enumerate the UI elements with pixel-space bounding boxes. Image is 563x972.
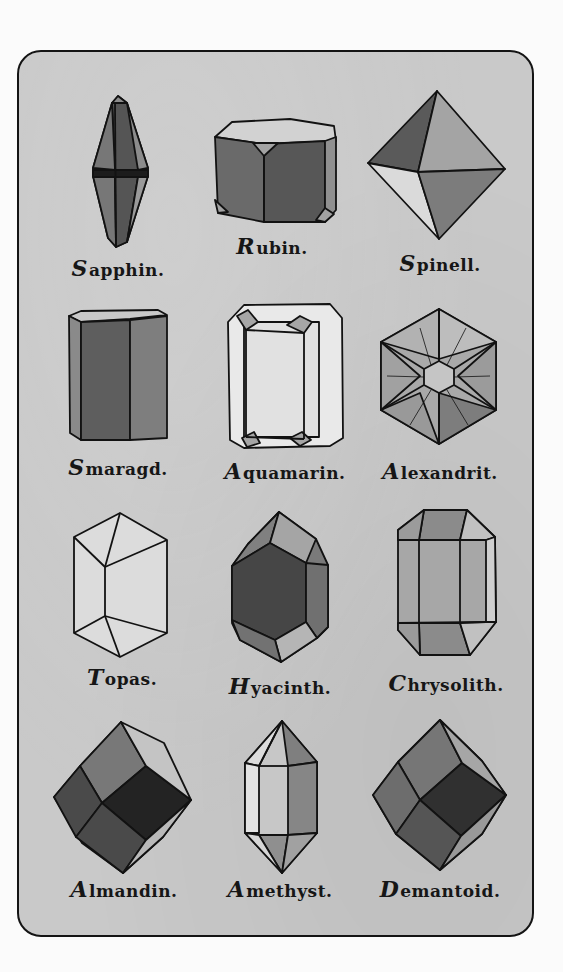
gem-label-chrysolith: Chrysolith. <box>388 670 503 696</box>
label-text: methyst. <box>246 881 332 901</box>
label-text: quamarin. <box>243 463 345 483</box>
crystal-illustrations <box>0 0 563 972</box>
label-initial: D <box>380 876 400 902</box>
gem-label-emerald: Smaragd. <box>68 454 168 480</box>
almandine-crystal-illustration <box>54 722 191 873</box>
label-initial: A <box>70 876 88 902</box>
gem-label-amethyst: Amethyst. <box>228 876 333 902</box>
chrysolith-crystal-illustration <box>398 510 496 655</box>
label-initial: H <box>229 673 250 699</box>
gem-label-ruby: Rubin. <box>236 233 307 259</box>
gem-label-topaz: Topas. <box>87 664 157 690</box>
gem-label-alexandrite: Alexandrit. <box>382 458 497 484</box>
gem-label-spinel: Spinell. <box>399 250 480 276</box>
label-text: emantoid. <box>400 881 500 901</box>
label-initial: S <box>68 454 84 480</box>
label-text: lmandin. <box>89 881 177 901</box>
label-initial: A <box>382 458 400 484</box>
label-text: pinell. <box>417 255 481 275</box>
label-initial: A <box>228 876 246 902</box>
label-text: yacinth. <box>251 678 331 698</box>
label-text: apphin. <box>89 260 164 280</box>
label-initial: C <box>388 670 406 696</box>
gem-label-demantoid: Demantoid. <box>380 876 501 902</box>
label-text: hrysolith. <box>407 675 503 695</box>
gem-label-aquamarine: Aquamarin. <box>224 458 345 484</box>
gem-label-hyacinth: Hyacinth. <box>229 673 332 699</box>
label-text: ubin. <box>256 238 307 258</box>
label-initial: A <box>224 458 242 484</box>
alexandrite-crystal-illustration <box>381 309 496 444</box>
emerald-crystal-illustration <box>69 310 167 440</box>
topaz-crystal-illustration <box>74 513 167 657</box>
amethyst-crystal-illustration <box>245 721 317 873</box>
label-initial: S <box>72 255 88 281</box>
spinel-crystal-illustration <box>368 91 505 239</box>
sapphire-crystal-illustration <box>93 96 148 247</box>
demantoid-crystal-illustration <box>373 720 506 870</box>
label-text: opas. <box>105 669 157 689</box>
label-initial: R <box>236 233 255 259</box>
label-initial: T <box>87 664 104 690</box>
aquamarine-crystal-illustration <box>228 304 343 448</box>
hyacinth-crystal-illustration <box>232 512 328 662</box>
label-initial: S <box>399 250 415 276</box>
gem-label-almandine: Almandin. <box>70 876 177 902</box>
label-text: lexandrit. <box>401 463 498 483</box>
ruby-crystal-illustration <box>215 119 336 222</box>
gem-label-sapphire: Sapphin. <box>72 255 165 281</box>
label-text: maragd. <box>86 459 168 479</box>
